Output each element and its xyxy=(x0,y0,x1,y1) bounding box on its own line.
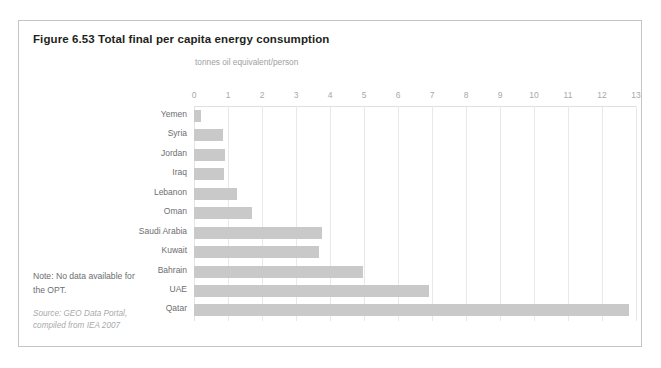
figure-note-line-2: the OPT. xyxy=(33,283,183,297)
x-tick-label: 6 xyxy=(396,90,401,100)
bar xyxy=(194,227,322,239)
figure-note-line-1: Note: No data available for xyxy=(33,269,183,283)
figure-title: Figure 6.53 Total final per capita energ… xyxy=(33,33,329,45)
bar-row: Kuwait xyxy=(194,243,636,262)
category-label: Oman xyxy=(164,206,187,216)
gridline xyxy=(636,106,637,321)
chart-plot-area: 012345678910111213 YemenSyriaJordanIraqL… xyxy=(194,76,636,321)
x-tick-label: 3 xyxy=(294,90,299,100)
x-axis-caption: tonnes oil equivalent/person xyxy=(195,57,298,67)
category-label: Lebanon xyxy=(154,187,187,197)
bar xyxy=(194,246,319,258)
figure-source-line-2: compiled from IEA 2007 xyxy=(33,320,183,332)
bar-row: Saudi Arabia xyxy=(194,224,636,243)
bar-row: Jordan xyxy=(194,146,636,165)
bar xyxy=(194,188,237,200)
bar xyxy=(194,266,363,278)
category-label: Yemen xyxy=(161,109,187,119)
figure-note: Note: No data available for the OPT. xyxy=(33,269,183,297)
figure-source-line-1: Source: GEO Data Portal, xyxy=(33,308,183,320)
bar xyxy=(194,110,201,122)
bar xyxy=(194,285,429,297)
bar-row: Yemen xyxy=(194,107,636,126)
bar xyxy=(194,149,225,161)
bar-row: Iraq xyxy=(194,165,636,184)
x-tick-label: 7 xyxy=(430,90,435,100)
category-label: Iraq xyxy=(172,167,187,177)
bar xyxy=(194,304,629,316)
x-tick-label: 5 xyxy=(362,90,367,100)
x-tick-label: 0 xyxy=(192,90,197,100)
category-label: Syria xyxy=(168,128,187,138)
bar-row: Bahrain xyxy=(194,263,636,282)
x-tick-label: 12 xyxy=(597,90,606,100)
x-tick-label: 1 xyxy=(226,90,231,100)
category-label: Saudi Arabia xyxy=(139,226,187,236)
bar xyxy=(194,129,223,141)
x-tick-label: 4 xyxy=(328,90,333,100)
bar-row: Syria xyxy=(194,126,636,145)
x-tick-label: 13 xyxy=(631,90,640,100)
x-tick-label: 11 xyxy=(564,90,573,100)
x-tick-label: 2 xyxy=(260,90,265,100)
bar-series: YemenSyriaJordanIraqLebanonOmanSaudi Ara… xyxy=(194,107,636,321)
category-label: Jordan xyxy=(161,148,187,158)
x-tick-label: 9 xyxy=(498,90,503,100)
figure-panel: Figure 6.53 Total final per capita energ… xyxy=(18,20,642,347)
bar xyxy=(194,168,224,180)
bar xyxy=(194,207,252,219)
x-tick-label: 10 xyxy=(529,90,538,100)
bar-row: UAE xyxy=(194,282,636,301)
bar-row: Oman xyxy=(194,204,636,223)
x-tick-label: 8 xyxy=(464,90,469,100)
figure-source: Source: GEO Data Portal, compiled from I… xyxy=(33,308,183,331)
bar-row: Qatar xyxy=(194,301,636,320)
category-label: Kuwait xyxy=(161,245,187,255)
bar-row: Lebanon xyxy=(194,185,636,204)
